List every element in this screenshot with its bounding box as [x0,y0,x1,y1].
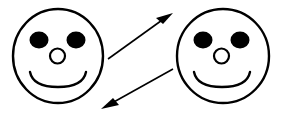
right-smiley-face [177,9,269,103]
diagram-canvas [0,0,284,116]
right-face-nose [214,49,229,64]
left-face-left-eye [30,32,49,49]
left-smiley-face [13,9,103,103]
right-face-left-eye [194,32,213,49]
left-face-right-eye [67,32,86,49]
smiley-faces-diagram [0,0,284,116]
right-face-right-eye [231,32,250,49]
left-face-nose [50,49,65,64]
